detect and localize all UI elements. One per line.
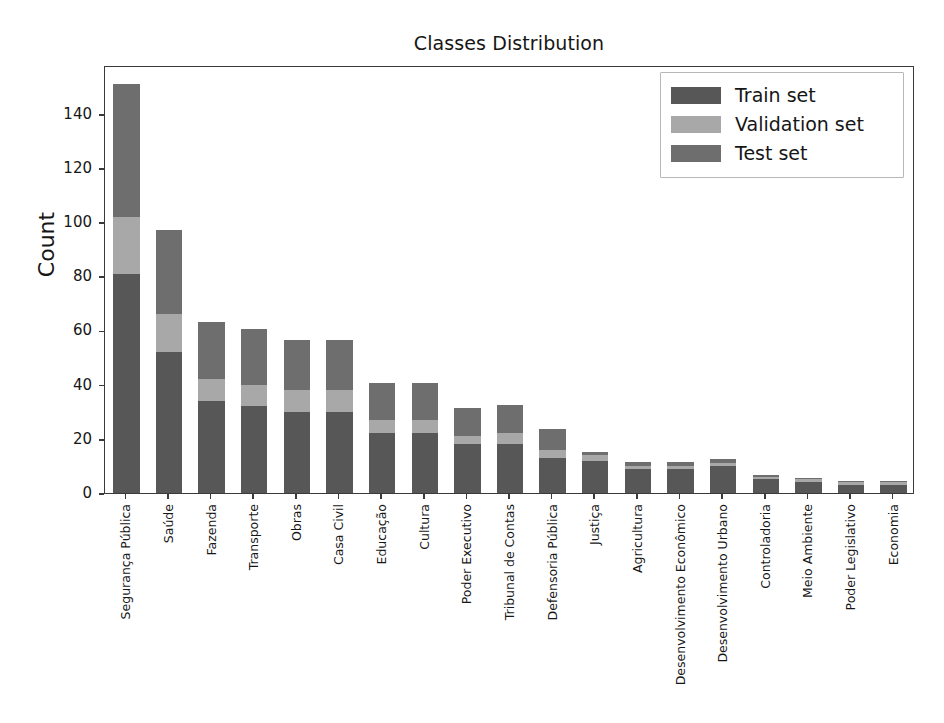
bar-segment [369,433,395,493]
bar-segment [284,340,310,390]
y-tick-mark [99,385,104,387]
bar-segment [156,314,182,352]
bar-segment [880,485,906,493]
bar-segment [412,383,438,420]
x-tick-label-text: Justiça [587,503,602,545]
legend-item: Test set [671,139,893,168]
x-tick-label-text: Poder Legislativo [843,503,858,610]
legend-item: Validation set [671,110,893,139]
chart-legend: Train setValidation setTest set [660,72,904,178]
x-tick-label-text: Segurança Pública [118,503,133,619]
y-tick-label: 0 [12,484,92,502]
bar-segment [284,390,310,412]
legend-label: Train set [735,86,816,105]
y-tick-label: 100 [12,213,92,231]
bar-segment [113,84,139,217]
x-tick-label-text: Economia [885,503,900,565]
figure-canvas: Classes Distribution Count 0204060801001… [0,0,944,723]
bar-group [198,67,224,493]
x-tick-label-text: Cultura [416,503,431,550]
y-tick-mark [99,331,104,333]
bar-segment [539,429,565,449]
y-tick-mark [99,493,104,495]
x-tick-label-text: Tribunal de Contas [502,503,517,620]
bar-segment [241,406,267,493]
bar-segment [539,458,565,493]
x-tick-label-text: Agricultura [629,503,644,573]
bar-segment [795,482,821,493]
bar-group [284,67,310,493]
bar-segment [241,385,267,407]
x-tick-label-text: Educação [374,503,389,564]
x-tick-label-text: Obras [288,503,303,541]
bar-group [369,67,395,493]
bar-segment [753,479,779,493]
bar-segment [113,217,139,274]
legend-label: Test set [735,144,808,163]
bar-segment [326,412,352,493]
bar-group [497,67,523,493]
bar-segment [198,401,224,493]
legend-label: Validation set [735,115,864,134]
legend-swatch-icon [671,87,721,104]
bar-segment [198,379,224,401]
y-tick-mark [99,114,104,116]
legend-swatch-icon [671,116,721,133]
bar-segment [454,444,480,493]
x-tick-label-text: Transporte [246,503,261,570]
bar-segment [113,274,139,493]
y-tick-mark [99,439,104,441]
y-tick-label: 80 [12,267,92,285]
legend-item: Train set [671,81,893,110]
x-tick-label-text: Desenvolvimento Econômico [672,503,687,685]
bar-group [454,67,480,493]
bar-segment [539,450,565,458]
bar-segment [838,485,864,493]
x-tick-label-text: Controladoria [757,503,772,589]
bar-segment [625,469,651,493]
bar-segment [369,420,395,434]
y-tick-label: 120 [12,159,92,177]
y-tick-label: 20 [12,430,92,448]
bar-segment [284,412,310,493]
page-title: Classes Distribution [104,32,914,54]
bar-group [412,67,438,493]
x-tick-label-text: Poder Executivo [459,503,474,604]
bar-segment [326,390,352,412]
bar-segment [156,230,182,314]
y-tick-label: 60 [12,321,92,339]
bar-group [625,67,651,493]
x-tick-label-text: Meio Ambiente [800,503,815,598]
bar-group [156,67,182,493]
y-tick-label: 140 [12,105,92,123]
x-tick-label: Economia [893,441,908,503]
bar-group [326,67,352,493]
bar-segment [326,340,352,390]
bar-segment [497,433,523,444]
x-tick-label-text: Saúde [160,503,175,543]
x-tick-label-text: Desenvolvimento Urbano [715,503,730,663]
bar-segment [497,405,523,433]
x-tick-label-text: Defensoria Pública [544,503,559,620]
bar-group [241,67,267,493]
bar-segment [497,444,523,493]
bar-segment [156,352,182,493]
y-tick-mark [99,222,104,224]
bar-segment [667,469,693,493]
y-tick-mark [99,168,104,170]
bar-segment [412,420,438,434]
bar-group [113,67,139,493]
bar-group [582,67,608,493]
bar-segment [454,408,480,436]
legend-swatch-icon [671,145,721,162]
bar-segment [198,322,224,379]
x-tick-label-text: Fazenda [203,503,218,555]
x-tick-label-text: Casa Civil [331,503,346,565]
bar-segment [412,433,438,493]
bar-segment [582,461,608,494]
bar-segment [369,383,395,420]
bar-segment [454,436,480,444]
bar-segment [710,466,736,493]
bar-segment [241,329,267,385]
y-tick-label: 40 [12,376,92,394]
